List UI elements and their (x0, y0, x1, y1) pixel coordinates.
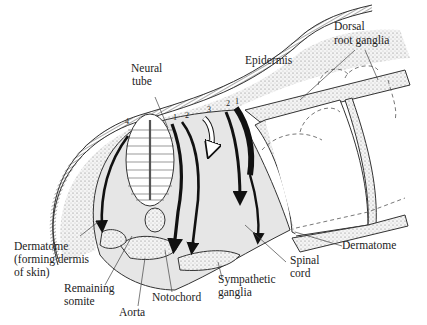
label-neural-tube-1: Neural (131, 62, 162, 74)
label-neural-tube-2: tube (132, 75, 152, 87)
label-dermatome-left-3: of skin) (14, 266, 50, 279)
label-epidermis: Epidermis (245, 54, 293, 67)
neural-tube (126, 114, 174, 206)
label-dermatome-left-2: (forming dermis (14, 253, 90, 266)
label-dermatome-right: Dermatome (342, 239, 396, 251)
label-spinal-cord-1: Spinal (290, 254, 319, 267)
label-dermatome-left-1: Dermatome (14, 240, 68, 252)
svg-text:4: 4 (125, 117, 129, 126)
label-sympathetic-ganglia-2: ganglia (218, 286, 252, 299)
neural-crest-migration-diagram: 4 1 2 3 2 1 Neural tube Epidermis Dorsal… (0, 0, 427, 325)
svg-text:1: 1 (173, 113, 177, 122)
label-remaining-somite-2: somite (64, 295, 95, 307)
label-aorta: Aorta (119, 306, 145, 318)
label-sympathetic-ganglia-1: Sympathetic (218, 273, 276, 286)
label-remaining-somite-1: Remaining (64, 282, 115, 295)
label-dorsal-root-ganglia-2: root ganglia (334, 34, 389, 47)
svg-text:2: 2 (185, 111, 189, 120)
dermatome-left-block (100, 230, 126, 249)
svg-text:1: 1 (235, 97, 239, 106)
label-notochord: Notochord (152, 291, 201, 303)
notochord (145, 208, 165, 232)
svg-text:2: 2 (226, 99, 230, 108)
label-spinal-cord-2: cord (290, 267, 311, 279)
svg-text:3: 3 (207, 105, 211, 114)
label-dorsal-root-ganglia-1: Dorsal (334, 20, 365, 32)
